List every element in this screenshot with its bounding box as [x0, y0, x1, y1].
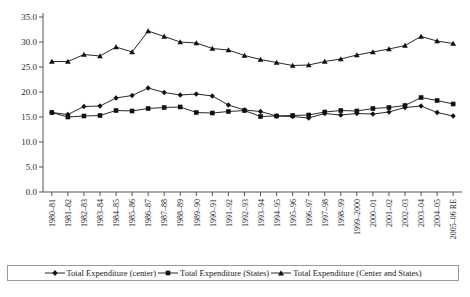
data-point-marker: [113, 95, 118, 101]
data-point-marker: [386, 109, 391, 115]
legend-label-center: Total Expenditure (center): [66, 268, 158, 278]
data-point-marker: [338, 112, 343, 118]
data-point-marker: [194, 91, 199, 97]
x-axis-tick-label: 1999–2000: [353, 199, 362, 235]
x-axis-tick-label: 1987–88: [160, 199, 169, 227]
data-point-marker: [226, 109, 231, 114]
series-line: [52, 31, 453, 66]
x-axis-tick-label: 1980–81: [48, 199, 57, 227]
data-point-marker: [146, 85, 151, 91]
x-axis-tick-label: 1993–94: [257, 199, 266, 227]
data-point-marker: [242, 108, 247, 113]
x-axis-tick-label: 1994–95: [273, 199, 282, 227]
chart-container: 0.05.010.015.020.025.030.035.01980–81198…: [0, 0, 470, 297]
x-axis-tick-label: 2003–04: [417, 199, 426, 227]
x-axis-tick-label: 1998–99: [337, 199, 346, 227]
legend-item-center: Total Expenditure (center): [44, 268, 158, 278]
line-chart: 0.05.010.015.020.025.030.035.01980–81198…: [0, 0, 470, 262]
data-point-marker: [178, 92, 183, 98]
data-point-marker: [146, 106, 151, 111]
y-axis-tick-label: 30.0: [21, 37, 37, 47]
x-axis-tick-label: 1991–92: [225, 199, 234, 227]
data-point-marker: [419, 95, 424, 100]
series-0: [49, 85, 456, 121]
data-point-marker: [161, 34, 167, 39]
series-2: [49, 28, 456, 68]
data-point-marker: [435, 98, 440, 103]
y-axis-tick-label: 5.0: [26, 162, 38, 172]
x-axis-tick-label: 1996–97: [305, 199, 314, 227]
data-point-marker: [403, 103, 408, 108]
legend-label-states: Total Expenditure (States): [179, 268, 270, 278]
data-point-marker: [129, 93, 134, 99]
y-axis-tick-label: 0.0: [26, 187, 38, 197]
data-point-marker: [418, 34, 424, 39]
x-axis-tick-label: 2001–02: [385, 199, 394, 227]
data-point-marker: [66, 115, 71, 120]
y-axis-tick-label: 15.0: [21, 112, 37, 122]
x-axis-tick-label: 2002–03: [401, 199, 410, 227]
data-point-marker: [451, 102, 456, 107]
data-point-marker: [290, 113, 295, 118]
data-point-marker: [338, 108, 343, 113]
data-point-marker: [242, 53, 248, 58]
data-point-marker: [258, 109, 263, 115]
legend-marker-diamond-icon: [44, 268, 66, 278]
data-point-marker: [50, 110, 55, 115]
data-point-marker: [82, 114, 87, 119]
data-point-marker: [145, 28, 151, 33]
data-point-marker: [306, 113, 311, 118]
data-point-marker: [355, 109, 360, 114]
data-point-marker: [130, 109, 135, 114]
data-point-marker: [162, 105, 167, 110]
legend-marker-triangle-icon: [270, 268, 292, 278]
y-axis-tick-label: 35.0: [21, 12, 37, 22]
x-axis-tick-label: 2004–05: [433, 199, 442, 227]
x-axis-tick-label: 1985–86: [128, 199, 137, 227]
x-axis-tick-label: 1989–90: [193, 199, 202, 227]
data-point-marker: [258, 114, 263, 119]
data-point-marker: [387, 105, 392, 110]
series-1: [50, 95, 456, 119]
data-point-marker: [371, 106, 376, 111]
x-axis-tick-label: 1984–85: [112, 199, 121, 227]
x-axis-tick-label: 1990–91: [209, 199, 218, 227]
x-axis-tick-label: 2000–01: [369, 199, 378, 227]
x-axis-tick-label: 1992–93: [241, 199, 250, 227]
x-axis-tick-label: 1982–83: [80, 199, 89, 227]
data-point-marker: [162, 90, 167, 96]
legend-marker-square-icon: [157, 268, 179, 278]
data-point-marker: [435, 110, 440, 116]
data-point-marker: [97, 103, 102, 109]
y-axis-tick-label: 25.0: [21, 62, 37, 72]
chart-legend: Total Expenditure (center) Total Expendi…: [7, 265, 459, 281]
data-point-marker: [210, 111, 215, 116]
legend-item-center-and-states: Total Expenditure (Center and States): [270, 268, 422, 278]
data-point-marker: [178, 105, 183, 110]
data-point-marker: [114, 108, 119, 113]
x-axis-tick-label: 1986–87: [144, 199, 153, 227]
legend-label-center-and-states: Total Expenditure (Center and States): [292, 268, 422, 278]
data-point-marker: [451, 113, 456, 119]
y-axis-tick-label: 20.0: [21, 87, 37, 97]
y-axis-tick-label: 10.0: [21, 137, 37, 147]
x-axis-tick-label: 2005–06 RE: [449, 199, 458, 239]
data-point-marker: [194, 110, 199, 115]
data-point-marker: [370, 111, 375, 117]
x-axis-tick-label: 1997–98: [321, 199, 330, 227]
x-axis-tick-label: 1995–96: [289, 199, 298, 227]
data-point-marker: [98, 113, 103, 118]
data-point-marker: [322, 110, 327, 115]
data-point-marker: [210, 93, 215, 99]
data-point-marker: [274, 114, 279, 119]
data-point-marker: [81, 104, 86, 110]
x-axis-tick-label: 1983–84: [96, 199, 105, 227]
data-point-marker: [226, 102, 231, 108]
legend-item-states: Total Expenditure (States): [157, 268, 270, 278]
data-point-marker: [113, 44, 119, 49]
data-point-marker: [418, 103, 423, 109]
x-axis-tick-label: 1988–89: [176, 199, 185, 227]
x-axis-tick-label: 1981–82: [64, 199, 73, 227]
data-point-marker: [402, 43, 408, 48]
